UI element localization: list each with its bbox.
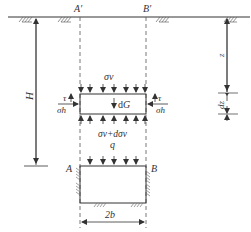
label-tau-left: τ [63,93,67,103]
label-q: q [110,139,115,150]
ground-surface [8,17,250,22]
label-b: B [151,163,157,174]
surcharge-arrows [90,156,136,164]
ground-hatch-icon [19,17,237,22]
label-z: z [216,53,226,58]
label-dz: dz [216,101,226,110]
arching-diagram: A′ B′ H z dz σv dG [0,0,251,232]
label-b-prime: B′ [143,3,152,14]
label-tau-right: τ [158,93,162,103]
width-2b-dimension: 2b [82,209,144,222]
label-sigma-v-top: σv [104,71,114,82]
sigma-v-top-arrows [81,84,145,92]
label-sigma-h-right: σh [156,105,165,115]
depth-h-dimension: H [23,19,48,166]
label-sigma-h-left: σh [57,105,66,115]
left-side-forces: τ σh [57,93,78,115]
depth-z-dimension: z dz [216,19,238,121]
label-a-prime: A′ [73,3,83,14]
label-h: H [23,91,35,101]
trapdoor-block [80,166,146,203]
label-sigma-v-bottom: σv+dσv [98,129,128,139]
soil-element [80,94,146,114]
sigma-v-bottom-arrows [81,116,145,124]
label-dg: dG [118,99,130,110]
label-a: A [65,163,73,174]
label-2b: 2b [105,209,115,220]
right-side-forces: τ σh [148,93,168,115]
support-hatch-icon [76,168,150,207]
